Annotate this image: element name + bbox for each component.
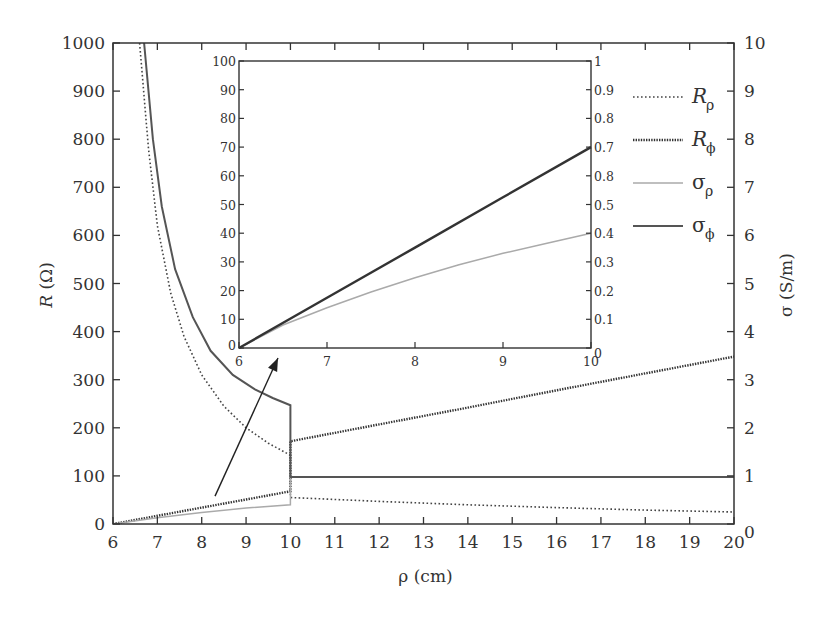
y-right-tick-label: 1: [744, 466, 755, 486]
inset-y-left-tick-label: 30: [220, 255, 236, 270]
legend-subscript: ϕ: [705, 226, 715, 242]
y-right-tick-label: 4: [744, 322, 755, 342]
y-right-tick-label: 8: [744, 129, 755, 149]
legend-label: σ: [692, 170, 706, 194]
inset-y-left-tick-label: 0: [228, 338, 236, 353]
x-tick-label: 6: [108, 532, 119, 552]
inset-y-left-tick-label: 60: [220, 169, 236, 184]
x-tick-label: 18: [634, 532, 656, 552]
inset-y-left-tick-label: 20: [220, 284, 236, 299]
y-right-tick-label: 2: [744, 418, 755, 438]
y-right-tick-label: 7: [744, 177, 755, 197]
y-right-tick-label: 3: [744, 370, 755, 390]
inset-y-right-tick-label: 1: [594, 54, 602, 69]
y-left-tick-label: 300: [73, 370, 105, 390]
legend-item: σϕ: [633, 213, 715, 242]
y-left-tick-label: 100: [73, 466, 105, 486]
y-right-tick-label: 0: [744, 522, 755, 542]
inset-y-right-tick-label: 0.1: [594, 312, 614, 327]
x-tick-label: 20: [723, 532, 745, 552]
inset-x-tick-label: 6: [235, 354, 243, 369]
x-tick-label: 13: [413, 532, 435, 552]
legend: RρRϕσρσϕ: [633, 84, 716, 242]
y-left-tick-label: 400: [73, 322, 105, 342]
legend-subscript: ρ: [705, 183, 713, 199]
legend-item: Rρ: [633, 84, 714, 113]
x-tick-label: 8: [196, 532, 207, 552]
x-tick-label: 15: [501, 532, 523, 552]
inset-y-left-tick-label: 90: [220, 83, 236, 98]
y-left-tick-label: 0: [94, 514, 105, 534]
inset-y-right-tick-label: 0.5: [594, 198, 614, 213]
inset-y-left-tick-label: 10: [220, 312, 236, 327]
y-left-tick-label: 500: [73, 274, 105, 294]
inset-y-right-tick-label: 0.4: [594, 226, 614, 241]
x-tick-label: 9: [241, 532, 252, 552]
inset-x-tick-label: 9: [499, 354, 507, 369]
y-left-tick-label: 800: [73, 129, 105, 149]
y-left-tick-label: 900: [73, 81, 105, 101]
legend-subscript: ρ: [706, 97, 714, 113]
x-tick-label: 7: [152, 532, 163, 552]
inset-y-right-tick-label: 0: [594, 346, 602, 361]
chart-svg: 6789101112131415161718192001002003004005…: [0, 0, 829, 620]
inset-x-tick-label: 8: [411, 354, 419, 369]
inset-y-left-tick-label: 100: [212, 54, 236, 69]
legend-label: R: [691, 84, 707, 108]
legend-label: R: [691, 127, 707, 151]
y-right-tick-label: 10: [744, 33, 766, 53]
arrowhead-icon: [268, 358, 278, 372]
y-left-tick-label: 200: [73, 418, 105, 438]
x-tick-label: 10: [280, 532, 302, 552]
annotation-arrow: [215, 358, 278, 496]
legend-item: Rϕ: [633, 127, 716, 156]
inset-plot: 678910010203040506070809010000.10.20.30.…: [212, 54, 614, 369]
x-tick-label: 14: [457, 532, 479, 552]
x-tick-label: 16: [546, 532, 568, 552]
inset-x-tick-label: 7: [323, 354, 331, 369]
y-left-tick-label: 1000: [62, 33, 105, 53]
inset-y-right-tick-label: 0.8: [594, 169, 614, 184]
inset-y-left-tick-label: 70: [220, 140, 236, 155]
series--line: [113, 477, 290, 524]
x-tick-label: 12: [368, 532, 390, 552]
inset-y-left-tick-label: 50: [220, 198, 236, 213]
y-right-tick-label: 9: [744, 81, 755, 101]
y-right-tick-label: 5: [744, 274, 755, 294]
legend-label: σ: [692, 213, 706, 237]
y-right-tick-label: 6: [744, 225, 755, 245]
legend-item: σρ: [633, 170, 713, 199]
x-tick-label: 11: [324, 532, 346, 552]
inset-y-right-tick-label: 0.7: [594, 140, 614, 155]
y-left-tick-label: 700: [73, 177, 105, 197]
inset-y-left-tick-label: 40: [220, 226, 236, 241]
x-axis-label: ρ (cm): [398, 566, 452, 586]
x-tick-label: 17: [590, 532, 612, 552]
inset-y-right-tick-label: 0.8: [594, 111, 614, 126]
legend-subscript: ϕ: [706, 140, 716, 156]
inset-y-left-tick-label: 80: [220, 111, 236, 126]
inset-y-right-tick-label: 0.2: [594, 284, 614, 299]
y-left-axis-label: R (Ω): [36, 262, 56, 309]
y-right-axis-label: σ (S/m): [776, 253, 796, 317]
y-left-tick-label: 600: [73, 225, 105, 245]
x-tick-label: 19: [679, 532, 701, 552]
inset-y-right-tick-label: 0.9: [594, 83, 614, 98]
inset-y-right-tick-label: 0.3: [594, 255, 614, 270]
